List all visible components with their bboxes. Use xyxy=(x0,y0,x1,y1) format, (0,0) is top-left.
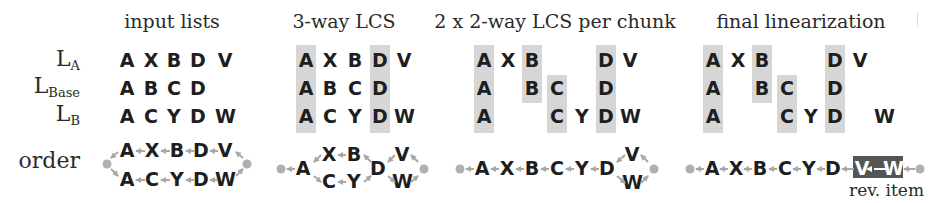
order-arrows xyxy=(0,0,951,203)
